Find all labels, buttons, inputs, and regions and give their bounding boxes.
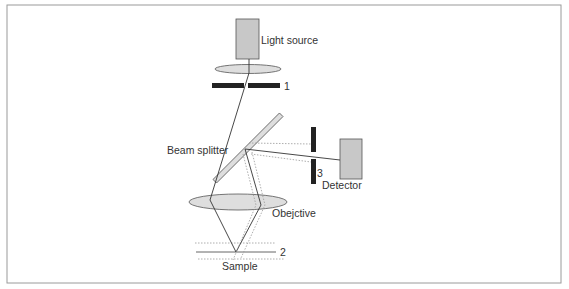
pinhole-1-label: 1 [284, 80, 290, 92]
objective-label: Obejctive [272, 207, 316, 219]
beam-splitter-label: Beam splitter [167, 144, 229, 156]
condenser-lens [215, 65, 281, 74]
sample-plane-label: 2 [280, 246, 286, 258]
light-source-label: Light source [261, 34, 318, 46]
figure-frame [7, 5, 561, 283]
pinhole-3-label: 3 [317, 167, 323, 179]
confocal-microscope-diagram: Light source 1 Beam splitter 3 Detector … [0, 0, 569, 289]
pinhole-1-right [248, 83, 280, 88]
pinhole-1-left [212, 83, 244, 88]
pinhole-3-bottom [311, 159, 316, 184]
pinhole-3-top [311, 127, 316, 152]
detector-label: Detector [322, 179, 362, 191]
light-source-box [236, 19, 259, 59]
detector-box [340, 139, 362, 179]
sample-label: Sample [222, 260, 258, 272]
